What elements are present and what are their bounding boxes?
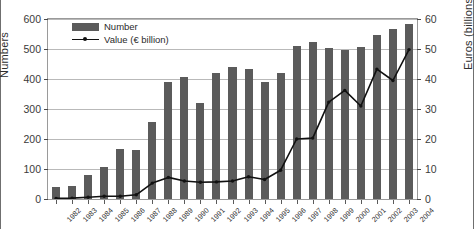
x-tick-label: 1994 bbox=[257, 206, 275, 224]
line-marker bbox=[54, 197, 57, 199]
y-tick-right bbox=[417, 109, 421, 110]
line-marker bbox=[183, 179, 186, 182]
x-tick-label: 1982 bbox=[65, 206, 83, 224]
y-tick-label-left: 600 bbox=[7, 14, 41, 24]
legend-entry-value: Value (€ billion) bbox=[72, 30, 169, 41]
line-marker bbox=[375, 67, 378, 70]
x-tick bbox=[200, 200, 201, 204]
x-tick bbox=[104, 200, 105, 204]
y-tick-label-right: 40 bbox=[425, 74, 455, 84]
x-tick-label: 1991 bbox=[209, 206, 227, 224]
x-tick bbox=[329, 200, 330, 204]
x-tick bbox=[249, 200, 250, 204]
line-marker bbox=[295, 137, 298, 140]
y-tick-label-left: 300 bbox=[7, 104, 41, 114]
x-tick bbox=[72, 200, 73, 204]
x-tick bbox=[88, 200, 89, 204]
line-marker bbox=[86, 196, 89, 199]
y-tick-right bbox=[417, 139, 421, 140]
x-tick-label: 1988 bbox=[161, 206, 179, 224]
line-marker bbox=[247, 175, 250, 178]
x-tick bbox=[393, 200, 394, 204]
x-tick-label: 1996 bbox=[289, 206, 307, 224]
line-series-value bbox=[48, 19, 417, 199]
x-tick bbox=[345, 200, 346, 204]
line-marker bbox=[102, 195, 105, 198]
x-tick bbox=[216, 200, 217, 204]
y-axis-left-title: Numbers bbox=[0, 32, 10, 78]
y-tick-label-right: 0 bbox=[425, 194, 455, 204]
line-marker bbox=[167, 176, 170, 179]
x-tick-label: 1999 bbox=[338, 206, 356, 224]
x-tick-label: 1985 bbox=[113, 206, 131, 224]
line-marker bbox=[119, 195, 122, 198]
x-tick bbox=[297, 200, 298, 204]
y-tick-label-right: 20 bbox=[425, 134, 455, 144]
line-marker bbox=[215, 180, 218, 183]
y-tick-right bbox=[417, 19, 421, 20]
x-tick-label: 1997 bbox=[305, 206, 323, 224]
x-tick-label: 1992 bbox=[225, 206, 243, 224]
x-tick bbox=[361, 200, 362, 204]
plot-area bbox=[47, 18, 418, 200]
x-tick bbox=[184, 200, 185, 204]
line-marker bbox=[311, 136, 314, 139]
line-marker bbox=[359, 104, 362, 107]
y-tick-right bbox=[417, 79, 421, 80]
y-tick-label-right: 30 bbox=[425, 104, 455, 114]
line-marker bbox=[407, 48, 410, 51]
line-marker bbox=[199, 181, 202, 184]
line-path bbox=[56, 50, 409, 199]
x-tick bbox=[152, 200, 153, 204]
x-tick bbox=[120, 200, 121, 204]
legend-label-value: Value (€ billion) bbox=[104, 34, 169, 45]
x-tick-label: 2003 bbox=[402, 206, 420, 224]
line-marker bbox=[279, 169, 282, 172]
line-marker bbox=[231, 179, 234, 182]
legend-line-swatch-icon bbox=[72, 36, 99, 44]
x-tick-label: 1984 bbox=[97, 206, 115, 224]
x-tick-label: 1990 bbox=[193, 206, 211, 224]
x-tick-label: 1987 bbox=[145, 206, 163, 224]
x-tick-label: 2002 bbox=[386, 206, 404, 224]
line-marker bbox=[135, 193, 138, 196]
x-tick bbox=[233, 200, 234, 204]
x-tick bbox=[409, 200, 410, 204]
x-tick-label: 1998 bbox=[322, 206, 340, 224]
y-tick-label-right: 60 bbox=[425, 14, 455, 24]
x-tick bbox=[136, 200, 137, 204]
x-tick-label: 1989 bbox=[177, 206, 195, 224]
x-tick-label: 1995 bbox=[273, 206, 291, 224]
y-tick-right bbox=[417, 49, 421, 50]
line-marker bbox=[151, 181, 154, 184]
x-tick-label: 2000 bbox=[354, 206, 372, 224]
x-tick-label: 2004 bbox=[418, 206, 436, 224]
x-tick bbox=[281, 200, 282, 204]
y-axis-right-title: Euros (billions) bbox=[462, 0, 474, 70]
y-tick-right bbox=[417, 169, 421, 170]
y-tick-label-left: 500 bbox=[7, 44, 41, 54]
y-tick-label-left: 100 bbox=[7, 164, 41, 174]
x-tick-label: 1993 bbox=[241, 206, 259, 224]
x-tick-label: 2001 bbox=[370, 206, 388, 224]
line-marker bbox=[343, 89, 346, 92]
x-tick bbox=[377, 200, 378, 204]
y-tick-label-left: 200 bbox=[7, 134, 41, 144]
x-tick bbox=[168, 200, 169, 204]
chart-legend: Number Value (€ billion) bbox=[72, 17, 202, 43]
y-tick-label-right: 50 bbox=[425, 44, 455, 54]
legend-entry-number: Number bbox=[72, 17, 138, 28]
x-tick-label: 1983 bbox=[81, 206, 99, 224]
x-axis-labels: 1982198319841985198619871988198919901991… bbox=[47, 200, 418, 229]
x-tick bbox=[265, 200, 266, 204]
x-tick-label: 1986 bbox=[129, 206, 147, 224]
x-tick bbox=[56, 200, 57, 204]
x-tick bbox=[313, 200, 314, 204]
y-tick-label-left: 400 bbox=[7, 74, 41, 84]
line-marker bbox=[391, 79, 394, 82]
y-tick-label-right: 10 bbox=[425, 164, 455, 174]
line-marker bbox=[263, 178, 266, 181]
y-tick-label-left: 0 bbox=[7, 194, 41, 204]
chart-container: Numbers Euros (billions) 010020030040050… bbox=[0, 0, 474, 229]
line-marker bbox=[70, 196, 73, 199]
